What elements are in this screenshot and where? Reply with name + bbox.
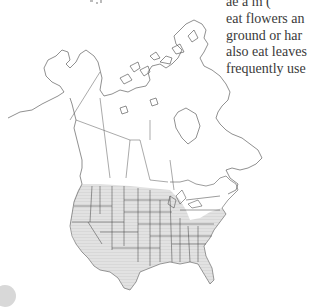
text-line: frequently use [226,61,320,78]
text-line: ground or har [226,28,320,45]
province-boundaries [70,72,174,190]
page-marker-shape [0,285,16,307]
canada-alaska-outline [8,20,262,194]
text-line: also eat leaves [226,44,320,61]
body-text-column: ae a m ( eat flowers an ground or har al… [226,0,320,78]
text-line: ae a m ( [226,0,320,11]
text-line: eat flowers an [226,11,320,28]
arctic-specks [90,0,102,4]
